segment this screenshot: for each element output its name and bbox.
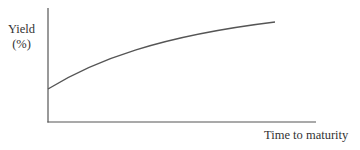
y-axis-label-line1: Yield	[0, 22, 43, 37]
y-axis-label-line2: (%)	[0, 37, 43, 52]
x-axis-label: Time to maturity	[264, 128, 348, 143]
yield-curve-line	[48, 22, 275, 89]
yield-curve-chart: Yield (%) Time to maturity	[0, 0, 360, 150]
y-axis-label: Yield (%)	[0, 22, 43, 52]
